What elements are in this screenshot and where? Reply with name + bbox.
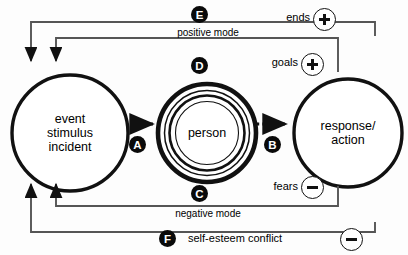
negative-mode-label: negative mode [148,208,268,219]
ends-label: ends [252,11,310,23]
minus-horizontal [307,186,318,189]
diagram-canvas: event stimulus incident person response/… [0,0,408,255]
plus-vertical [323,14,326,25]
node-person-label: person [167,126,247,140]
positive-mode-label: positive mode [148,27,268,38]
marker-e: E [191,6,208,23]
plus-vertical [311,59,314,70]
fears-label: fears [240,180,298,192]
goals-plus-badge [301,53,324,76]
marker-f: F [159,230,176,247]
node-event-label: event stimulus incident [20,112,120,154]
marker-b: B [264,136,281,153]
fears-minus-badge [301,176,324,199]
marker-a: A [129,136,146,153]
minus-horizontal [346,238,357,241]
self-esteem-minus-badge [340,228,363,251]
self-esteem-conflict-label: self-esteem conflict [188,232,334,244]
goals-label: goals [240,56,298,68]
marker-d: D [191,57,208,74]
marker-c: C [191,185,208,202]
ends-plus-badge [313,8,336,31]
node-response-label: response/ action [303,119,393,147]
